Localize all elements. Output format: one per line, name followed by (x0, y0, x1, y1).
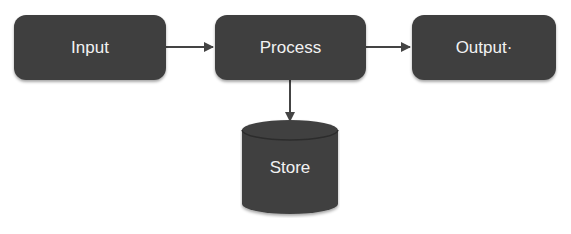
node-process[interactable]: Process (215, 15, 366, 80)
node-input[interactable]: Input (14, 15, 166, 80)
node-store[interactable]: Store (240, 118, 340, 218)
node-output[interactable]: Output· (412, 15, 556, 80)
node-output-label: Output· (456, 38, 513, 58)
node-process-label: Process (260, 38, 321, 58)
diagram-canvas: Input Process Output· Store (0, 0, 571, 234)
node-store-label: Store (240, 158, 340, 178)
node-input-label: Input (71, 38, 109, 58)
